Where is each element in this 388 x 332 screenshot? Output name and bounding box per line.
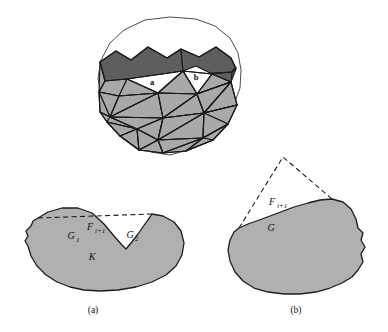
label-gap-left: G: [67, 230, 74, 241]
figure-canvas: a b G 1 G 2 F i+1 K (a) F i+1 G (b): [0, 0, 388, 332]
label-gap-left-sub: 1: [76, 236, 80, 244]
panel-b-group: F i+1 G (b): [228, 157, 365, 316]
triangulated-disc-panel: a b: [98, 17, 241, 155]
label-vertex-k: K: [88, 251, 97, 262]
label-front-a: F: [86, 221, 94, 232]
blob-a-shape: [25, 208, 184, 291]
label-front-a-sub: i+1: [95, 227, 105, 235]
label-gap-b: G: [267, 222, 274, 233]
figure-root: a b G 1 G 2 F i+1 K (a) F i+1 G (b): [0, 0, 388, 332]
label-gap-right: G: [126, 229, 133, 240]
label-front-b-sub: i+1: [277, 202, 287, 210]
label-triangle-b: b: [194, 72, 199, 82]
caption-b: (b): [290, 305, 301, 316]
label-front-b: F: [268, 196, 276, 207]
panel-a-group: G 1 G 2 F i+1 K (a): [25, 208, 184, 316]
caption-a: (a): [88, 305, 99, 316]
label-gap-right-sub: 2: [135, 235, 139, 243]
